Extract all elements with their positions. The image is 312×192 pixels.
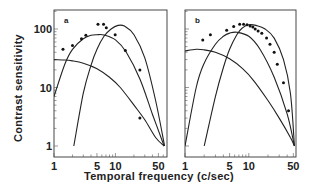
data-point — [232, 25, 235, 28]
panel-b: 151050b — [182, 10, 300, 172]
fit-curve — [54, 34, 164, 146]
data-point — [238, 23, 241, 26]
y-tick-label: 10 — [40, 82, 52, 94]
data-point — [114, 33, 117, 36]
data-point — [242, 23, 245, 26]
fit-curve — [54, 60, 164, 146]
data-point — [260, 32, 263, 35]
y-tick-label: 100 — [34, 23, 52, 35]
fit-curve — [204, 25, 294, 146]
data-point — [209, 33, 212, 36]
data-point — [102, 23, 105, 26]
chart-canvas: 100101151050a151050b — [0, 0, 312, 192]
data-point — [84, 34, 87, 37]
data-point — [257, 30, 260, 33]
data-point — [246, 23, 249, 26]
plot-frame — [54, 10, 167, 157]
data-point — [251, 26, 254, 29]
panel-a: 100101151050a — [34, 10, 167, 172]
y-axis-label: Contrast sensitivity — [12, 34, 24, 142]
data-point — [265, 37, 268, 40]
data-point — [80, 37, 83, 40]
plot-frame — [185, 10, 296, 157]
data-point — [225, 29, 228, 32]
data-point — [96, 23, 99, 26]
data-point — [124, 49, 127, 52]
data-point — [276, 63, 279, 66]
data-point — [249, 25, 252, 28]
panel-label: b — [195, 16, 200, 25]
data-point — [71, 44, 74, 47]
data-point — [201, 38, 204, 41]
x-axis-label: Temporal frequency (c/sec) — [0, 170, 312, 182]
panel-label: a — [64, 16, 69, 25]
data-point — [138, 68, 141, 71]
data-point — [287, 109, 290, 112]
data-point — [273, 51, 276, 54]
y-tick-label: 1 — [46, 140, 52, 152]
data-point — [254, 28, 257, 31]
data-point — [268, 43, 271, 46]
data-point — [282, 81, 285, 84]
data-point — [105, 26, 108, 29]
data-point — [138, 117, 141, 120]
data-point — [61, 48, 64, 51]
